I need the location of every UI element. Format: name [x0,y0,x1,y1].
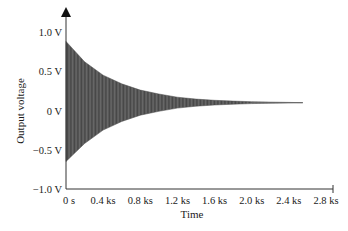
y-tick-label: −1.0 V [33,184,62,195]
chart: 1.0 V0.5 V0 V−0.5 V−1.0 V 0 s0.4 ks0.8 k… [0,0,348,231]
x-tick-labels: 0 s0.4 ks0.8 ks1.2 ks1.6 ks2.0 ks2.4 ks2… [63,195,339,206]
y-tick-label: −0.5 V [33,145,62,156]
x-tick-label: 2.8 ks [313,195,338,206]
x-tick-label: 2.0 ks [239,195,264,206]
y-tick-label: 0.5 V [39,66,63,77]
x-tick-label: 0 s [63,195,75,206]
y-tick-label: 0 V [47,106,63,117]
y-tick-labels: 1.0 V0.5 V0 V−0.5 V−1.0 V [33,27,62,195]
y-axis-arrow-icon [61,7,71,17]
x-tick-label: 0.4 ks [91,195,116,206]
x-tick-label: 1.2 ks [165,195,190,206]
x-axis-label: Time [181,208,204,220]
y-axis-label: Output voltage [14,78,26,144]
x-tick-label: 0.8 ks [128,195,153,206]
waveform-envelope [66,41,303,161]
x-tick-label: 1.6 ks [202,195,227,206]
x-tick-label: 2.4 ks [276,195,301,206]
y-tick-label: 1.0 V [39,27,63,38]
